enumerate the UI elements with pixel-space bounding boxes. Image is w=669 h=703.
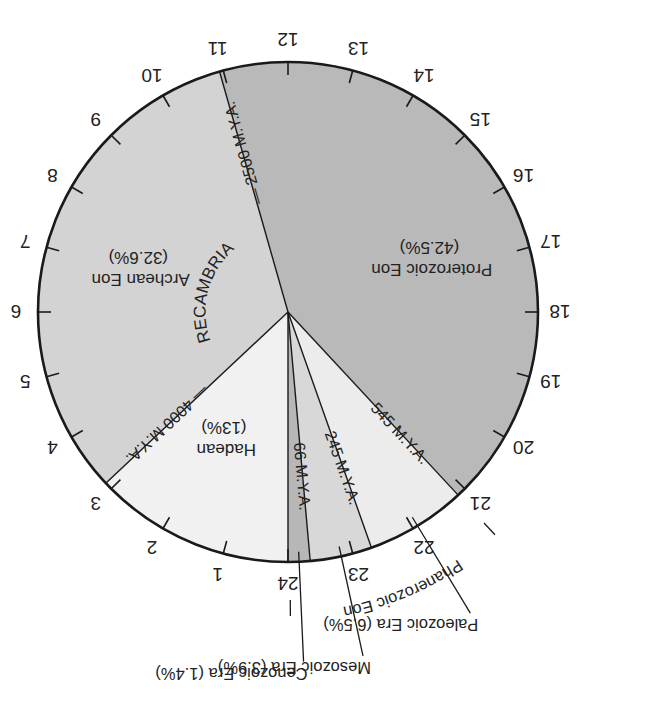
- clock-svg: 123456789101112131415161718192021222324 …: [0, 0, 669, 703]
- bracket-end: [484, 523, 495, 535]
- hour-number-3: 3: [90, 493, 101, 514]
- hour-number-11: 11: [208, 38, 228, 59]
- hour-number-5: 5: [20, 371, 31, 392]
- cenozoic-callout-label: Cenozoic Era (1.4%): [155, 665, 307, 683]
- cenozoic-leader-line: [299, 552, 304, 662]
- hour-number-10: 10: [141, 65, 162, 86]
- hour-number-23: 23: [348, 564, 369, 585]
- hour-number-24: 24: [277, 573, 299, 594]
- hour-number-4: 4: [47, 437, 58, 458]
- hour-number-6: 6: [11, 301, 22, 322]
- hour-number-20: 20: [513, 437, 534, 458]
- hour-number-17: 17: [540, 231, 561, 252]
- hour-number-14: 14: [413, 65, 435, 86]
- hour-number-21: 21: [470, 493, 491, 514]
- hour-number-7: 7: [20, 231, 31, 252]
- hour-number-18: 18: [549, 301, 570, 322]
- rotated-clock-group: 123456789101112131415161718192021222324 …: [11, 29, 582, 683]
- geologic-clock-diagram: 123456789101112131415161718192021222324 …: [0, 0, 669, 703]
- hour-number-22: 22: [413, 537, 434, 558]
- hour-number-15: 15: [470, 109, 491, 130]
- hour-number-1: 1: [212, 564, 223, 585]
- hour-number-19: 19: [540, 371, 561, 392]
- paleozoic-callout-label: Paleozoic Era (6.5%): [323, 616, 478, 634]
- hour-number-9: 9: [90, 109, 101, 130]
- hour-number-12: 12: [277, 29, 298, 50]
- hour-number-8: 8: [47, 165, 58, 186]
- hour-number-2: 2: [147, 537, 158, 558]
- hour-number-13: 13: [348, 38, 369, 59]
- hour-number-16: 16: [513, 165, 534, 186]
